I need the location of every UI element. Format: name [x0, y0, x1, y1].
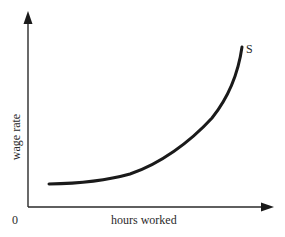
supply-curve — [49, 47, 242, 184]
y-axis — [24, 11, 33, 207]
y-axis-label: wage rate — [9, 114, 23, 160]
curve-label: S — [246, 42, 253, 56]
x-axis-label: hours worked — [111, 213, 177, 227]
y-axis-arrow-icon — [24, 11, 33, 24]
labour-supply-chart: S 0 hours worked wage rate — [0, 0, 285, 237]
x-axis-arrow-icon — [261, 203, 274, 212]
x-axis — [28, 203, 274, 212]
origin-label: 0 — [12, 213, 18, 227]
